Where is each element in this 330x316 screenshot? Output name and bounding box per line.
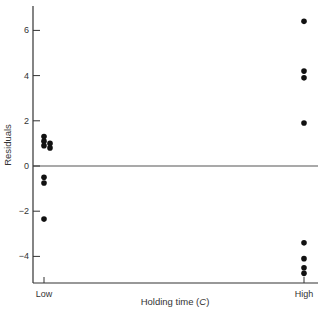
y-tick-label: 6 <box>24 25 29 35</box>
y-tick-label: 0 <box>24 161 29 171</box>
x-tick-label-low: Low <box>36 289 53 299</box>
data-point-low <box>41 216 47 222</box>
x-tick-label-high: High <box>295 289 314 299</box>
data-point-low <box>41 143 47 149</box>
data-point-high <box>301 256 307 262</box>
y-tick-label: 4 <box>24 71 29 81</box>
data-point-high <box>301 19 307 25</box>
data-point-high <box>301 240 307 246</box>
y-tick-label: −2 <box>19 206 29 216</box>
x-axis-title: Holding time (C) <box>141 296 210 307</box>
y-tick-label: 2 <box>24 116 29 126</box>
data-point-high <box>301 271 307 277</box>
y-ticks: −4−20246 <box>19 25 40 261</box>
data-point-low <box>41 175 47 181</box>
data-point-high <box>301 75 307 81</box>
y-axis-title: Residuals <box>2 124 13 166</box>
data-point-high <box>301 68 307 74</box>
data-point-low <box>47 145 53 151</box>
residual-plot: −4−20246 Low High Holding time (C) Resid… <box>0 0 330 316</box>
data-point-high <box>301 265 307 271</box>
data-point-low <box>41 180 47 186</box>
data-points <box>41 19 307 277</box>
data-point-high <box>301 120 307 126</box>
y-tick-label: −4 <box>19 251 29 261</box>
